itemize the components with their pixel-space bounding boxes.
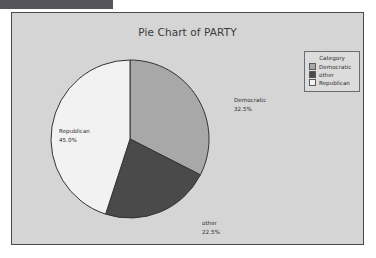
- slice-label-other-name: other: [202, 220, 217, 226]
- chart-legend: Category DemocraticotherRepublican: [304, 51, 360, 92]
- slice-label-democratic: Democratic 32.5%: [234, 96, 266, 113]
- legend-item-other: other: [309, 71, 355, 78]
- legend-swatch-democratic: [309, 63, 316, 70]
- slice-label-other: other 22.5%: [202, 219, 220, 236]
- legend-item-democratic: Democratic: [309, 63, 355, 70]
- legend-swatch-republican: [309, 79, 316, 86]
- plot-area: Democratic 32.5% other 22.5% Republican …: [12, 13, 363, 244]
- slice-label-republican: Republican 45.0%: [59, 127, 90, 144]
- chart-panel: Pie Chart of PARTY Democratic 32.5% othe…: [11, 12, 364, 245]
- slice-label-republican-value: 45.0%: [59, 136, 90, 145]
- slice-label-republican-name: Republican: [59, 128, 90, 134]
- slice-label-democratic-name: Democratic: [234, 97, 266, 103]
- legend-label-other: other: [319, 72, 334, 78]
- legend-item-republican: Republican: [309, 79, 355, 86]
- legend-rows: DemocraticotherRepublican: [309, 63, 355, 86]
- window-titlebar: [0, 0, 113, 9]
- legend-swatch-other: [309, 71, 316, 78]
- legend-title: Category: [309, 55, 355, 61]
- legend-label-democratic: Democratic: [319, 64, 351, 70]
- legend-label-republican: Republican: [319, 80, 350, 86]
- slice-label-other-value: 22.5%: [202, 228, 220, 237]
- slice-label-democratic-value: 32.5%: [234, 105, 266, 114]
